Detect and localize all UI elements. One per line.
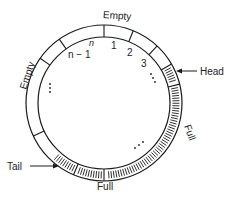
full-slot-hatch	[167, 129, 173, 132]
circular-buffer-diagram: Empty Empty Full Full n n − 1 1 2 3 Head…	[0, 0, 231, 203]
slot-divider	[129, 31, 133, 42]
ring-inner-edge	[38, 37, 170, 169]
slot-divider	[40, 58, 50, 65]
full-slot-hatch	[171, 117, 178, 118]
tail-label: Tail	[7, 161, 22, 172]
slot-divider	[33, 131, 44, 136]
slot-divider	[168, 84, 180, 87]
full-slot-hatch	[169, 124, 176, 126]
full-slot-hatch	[78, 167, 80, 174]
full-slot-hatch	[88, 170, 89, 177]
full-slot-hatch	[168, 77, 175, 79]
full-slot-hatch	[170, 120, 177, 122]
full-bottom-label: Full	[97, 181, 113, 192]
full-slot-hatch	[172, 90, 179, 91]
full-slot-hatch	[80, 168, 82, 175]
full-slot-hatch	[116, 171, 117, 178]
full-right-label: Full	[182, 123, 198, 142]
slot-divider	[59, 39, 66, 49]
slot-dividers	[33, 25, 179, 181]
full-slot-hatch	[172, 110, 179, 111]
full-slot-hatch	[93, 171, 94, 178]
head-label: Head	[200, 66, 224, 77]
slot-divider	[149, 46, 157, 55]
full-slot-hatch	[167, 73, 173, 76]
full-slot-hatch	[83, 169, 85, 176]
full-slot-hatch	[165, 68, 171, 71]
full-slot-hatch	[96, 171, 97, 178]
slot-1-label: 1	[111, 40, 117, 51]
full-slot-hatch	[118, 170, 119, 177]
full-slot-hatch	[125, 168, 127, 175]
ellipsis-left	[49, 83, 51, 93]
ellipsis-bottom-right	[134, 141, 144, 149]
full-slot-hatch	[111, 171, 112, 178]
full-slot-hatch	[171, 115, 178, 116]
slot-divider	[161, 64, 171, 70]
slot-2-label: 2	[127, 47, 133, 58]
full-slot-hatch	[170, 122, 177, 124]
full-slot-hatch	[172, 113, 179, 114]
head-pointer: Head	[176, 66, 224, 77]
full-slot-hatch	[166, 131, 172, 134]
full-slot-hatch	[72, 165, 75, 171]
full-slot-hatch	[168, 75, 174, 78]
full-slot-hatch	[85, 169, 87, 176]
full-slot-hatch	[172, 108, 179, 109]
full-slot-hatch	[91, 170, 92, 177]
slot-n-label: n	[89, 38, 94, 48]
tail-pointer: Tail	[7, 161, 59, 172]
full-slot-hatch	[165, 133, 171, 136]
empty-left-label: Empty	[17, 60, 36, 90]
full-slot-hatch	[120, 170, 122, 177]
full-slot-hatch	[123, 169, 125, 176]
full-slot-hatch	[132, 166, 135, 172]
slot-n-minus-1-label: n − 1	[68, 49, 91, 60]
slot-3-label: 3	[141, 58, 147, 69]
ring-outer-edge	[26, 25, 182, 181]
full-slot-hatch	[171, 88, 178, 89]
full-slot-hatch	[169, 80, 176, 82]
ellipsis-top-right	[150, 73, 156, 83]
full-slot-hatch	[134, 165, 137, 171]
full-slot-hatch	[69, 164, 72, 170]
head-arrow-icon	[176, 69, 182, 74]
empty-top-label: Empty	[103, 9, 132, 22]
full-slot-hatch	[98, 171, 99, 178]
full-slot-hatch	[172, 93, 179, 94]
full-slot-hatch	[129, 167, 132, 173]
full-slot-hatch	[113, 171, 114, 178]
full-slot-hatch	[172, 95, 179, 96]
full-slot-hatch	[168, 127, 175, 129]
full-slot-hatch	[166, 70, 172, 73]
full-slot-hatch	[127, 167, 129, 174]
